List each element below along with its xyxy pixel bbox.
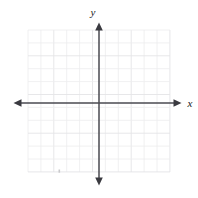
coordinate-plane-svg: y x bbox=[0, 0, 198, 198]
y-axis-label: y bbox=[90, 6, 96, 18]
stray-mark bbox=[59, 170, 61, 173]
x-axis-label: x bbox=[187, 97, 193, 109]
coordinate-plane-figure: y x bbox=[0, 0, 198, 198]
x-axis-left-arrowhead bbox=[14, 99, 22, 107]
x-axis-right-arrowhead bbox=[174, 99, 182, 107]
y-axis-top-arrowhead bbox=[95, 23, 103, 31]
y-axis bbox=[95, 23, 103, 186]
x-axis bbox=[14, 99, 182, 107]
y-axis-bottom-arrowhead bbox=[95, 178, 103, 186]
